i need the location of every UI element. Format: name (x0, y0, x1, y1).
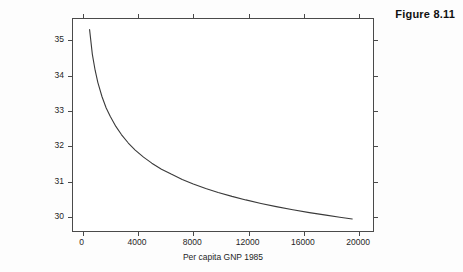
x-tick-label: 4000 (128, 237, 147, 247)
x-tick-mark (138, 231, 139, 236)
y-tick-mark-right (373, 76, 378, 77)
x-tick-mark-top (138, 14, 139, 19)
y-tick-label: 31 (55, 176, 64, 186)
x-tick-label: 12000 (236, 237, 260, 247)
x-tick-mark (359, 231, 360, 236)
x-tick-mark (83, 231, 84, 236)
y-tick-mark-right (373, 182, 378, 183)
y-tick-label: 35 (55, 34, 64, 44)
figure-caption: Figure 8.11 (395, 8, 455, 20)
y-tick-mark (68, 40, 73, 41)
x-tick-label: 8000 (183, 237, 202, 247)
x-tick-mark (304, 231, 305, 236)
y-tick-label: 34 (55, 70, 64, 80)
plot-frame (72, 18, 374, 232)
y-tick-mark (68, 146, 73, 147)
x-tick-mark-top (83, 14, 84, 19)
x-tick-mark-top (304, 14, 305, 19)
y-tick-mark (68, 217, 73, 218)
x-tick-mark-top (193, 14, 194, 19)
x-tick-mark-top (359, 14, 360, 19)
x-tick-mark (193, 231, 194, 236)
y-tick-mark (68, 111, 73, 112)
y-tick-label: 33 (55, 105, 64, 115)
y-tick-mark-right (373, 217, 378, 218)
y-tick-mark-right (373, 40, 378, 41)
x-axis-title: Per capita GNP 1985 (72, 252, 374, 262)
y-tick-mark-right (373, 146, 378, 147)
birth-curve (90, 30, 353, 219)
y-tick-label: 32 (55, 140, 64, 150)
plot-svg (73, 19, 375, 233)
y-tick-mark (68, 76, 73, 77)
figure-container: Figure 8.11 3031323334350400080001200016… (0, 0, 463, 272)
x-tick-label: 16000 (291, 237, 315, 247)
x-tick-mark-top (249, 14, 250, 19)
x-tick-label: 0 (79, 237, 84, 247)
y-tick-mark-right (373, 111, 378, 112)
x-tick-label: 20000 (346, 237, 370, 247)
y-tick-mark (68, 182, 73, 183)
x-tick-mark (249, 231, 250, 236)
y-tick-label: 30 (55, 211, 64, 221)
